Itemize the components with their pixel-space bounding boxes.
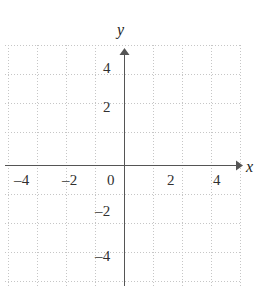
grid-horizontal-lines — [5, 46, 241, 282]
y-tick-label-2: 2 — [103, 100, 111, 115]
x-tick-label-2: 2 — [167, 173, 175, 188]
x-tick-label-zero: 0 — [107, 173, 115, 188]
y-tick-label-4: 4 — [103, 61, 111, 76]
x-axis-label: x — [246, 159, 253, 175]
y-tick-label-neg4: –4 — [95, 249, 111, 264]
x-tick-label-neg4: –4 — [14, 173, 30, 188]
y-axis-label: y — [117, 22, 124, 38]
x-tick-label-4: 4 — [213, 173, 221, 188]
y-tick-label-neg2: –2 — [95, 204, 111, 219]
coordinate-plane-figure: –4 –2 0 2 4 4 2 –2 –4 x y — [0, 0, 269, 286]
y-axis — [120, 48, 130, 286]
plot-area — [0, 0, 269, 286]
x-tick-label-neg2: –2 — [62, 173, 78, 188]
